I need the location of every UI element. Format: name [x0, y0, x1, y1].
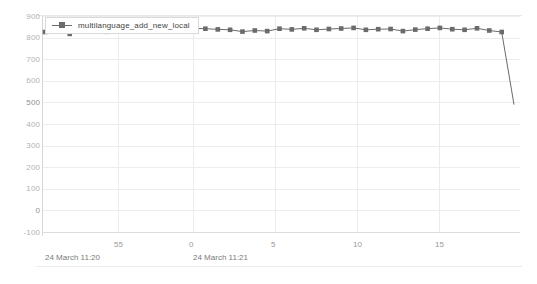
data-point-marker[interactable]	[425, 26, 430, 31]
data-point-marker[interactable]	[327, 27, 332, 32]
data-point-marker[interactable]	[302, 26, 307, 31]
data-point-marker[interactable]	[364, 28, 369, 33]
data-point-marker[interactable]	[438, 26, 443, 31]
series-plot-layer	[0, 0, 537, 284]
data-point-marker[interactable]	[487, 28, 492, 33]
data-point-marker[interactable]	[265, 29, 270, 34]
data-point-marker[interactable]	[413, 27, 418, 32]
data-point-marker[interactable]	[290, 27, 295, 32]
data-point-marker[interactable]	[203, 26, 208, 31]
data-point-marker[interactable]	[351, 26, 356, 31]
data-point-marker[interactable]	[475, 26, 480, 31]
data-point-marker[interactable]	[401, 29, 406, 34]
data-point-marker[interactable]	[277, 26, 282, 31]
legend-entry-label: multilanguage_add_new_local	[78, 21, 190, 30]
data-point-marker[interactable]	[228, 28, 233, 33]
data-point-marker[interactable]	[499, 30, 504, 35]
data-point-marker[interactable]	[376, 27, 381, 32]
data-point-marker[interactable]	[253, 28, 258, 33]
line-chart: 9008007006005004003002001000-100 5505101…	[0, 0, 537, 284]
data-point-marker[interactable]	[240, 29, 245, 34]
data-point-marker[interactable]	[216, 27, 221, 32]
data-point-marker[interactable]	[388, 27, 393, 32]
chart-legend[interactable]: multilanguage_add_new_local	[45, 17, 199, 34]
series-line	[45, 26, 514, 104]
data-point-marker[interactable]	[314, 28, 319, 33]
data-point-marker[interactable]	[462, 28, 467, 33]
data-point-marker[interactable]	[450, 27, 455, 32]
line-square-marker-icon	[52, 21, 72, 30]
data-point-marker[interactable]	[339, 26, 344, 31]
